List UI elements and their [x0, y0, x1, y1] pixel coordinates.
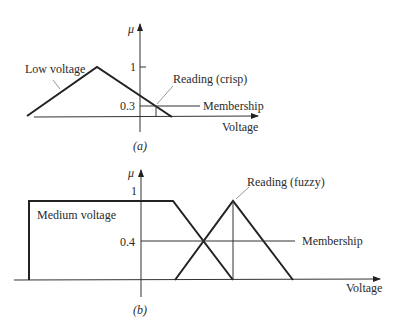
panel-a-x-axis-label: Voltage [222, 120, 258, 134]
panel-b: μ 1 0.4 Medium voltage Reading (fuzzy) M… [14, 166, 382, 317]
panel-b-membership-label: Membership [302, 234, 363, 248]
low-voltage-leader [53, 80, 60, 89]
panel-a-y-axis-label: μ [127, 22, 134, 36]
panel-b-caption: (b) [133, 303, 147, 317]
crisp-reading-label: Reading (crisp) [173, 72, 247, 86]
fuzzy-membership-diagram: μ 1 0.3 Low voltage Reading (crisp) Memb… [0, 0, 394, 328]
panel-b-y-axis-label: μ [127, 166, 134, 180]
panel-a-membership-tick-label: 0.3 [120, 99, 135, 113]
low-voltage-label: Low voltage [25, 62, 85, 76]
panel-b-x-axis [14, 279, 380, 280]
panel-a-tick-1-label: 1 [130, 60, 136, 74]
panel-a-x-axis [34, 116, 258, 117]
crisp-reading-leader [157, 86, 173, 104]
medium-voltage-label: Medium voltage [37, 208, 116, 222]
panel-b-membership-tick-label: 0.4 [120, 235, 135, 249]
panel-a-caption: (a) [133, 139, 147, 153]
panel-a: μ 1 0.3 Low voltage Reading (crisp) Memb… [25, 22, 264, 153]
fuzzy-reading-label: Reading (fuzzy) [247, 175, 325, 189]
panel-b-x-axis-label: Voltage [346, 281, 382, 295]
panel-a-membership-label: Membership [203, 99, 264, 113]
panel-b-tick-1-label: 1 [131, 184, 137, 198]
